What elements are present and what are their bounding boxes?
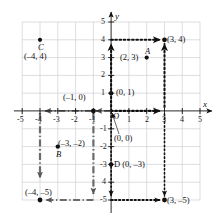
point-neg4-neg5 bbox=[38, 198, 43, 203]
x-tick-neg5: -5 bbox=[17, 116, 24, 124]
coord-label-3-neg5: (3, –5) bbox=[167, 196, 190, 205]
y-tick-2: 2 bbox=[101, 71, 105, 79]
x-tick-neg4: -4 bbox=[35, 116, 42, 124]
x-tick-5: 5 bbox=[198, 116, 202, 124]
point-A bbox=[145, 56, 149, 60]
coord-label-3-4: (3, 4) bbox=[167, 35, 185, 44]
coord-label-D: D (0, –3) bbox=[114, 160, 145, 169]
point-label-B: B bbox=[56, 150, 61, 159]
y-tick-neg4: 4 bbox=[102, 178, 106, 186]
point-neg1-0 bbox=[91, 109, 96, 114]
point-label-A: A bbox=[145, 47, 150, 56]
y-tick-4: 4 bbox=[101, 36, 105, 44]
x-tick-2: 2 bbox=[145, 116, 149, 124]
x-tick-4: 4 bbox=[180, 116, 184, 124]
coordinate-plane-figure: x y O -5 -4 -3 -2 -1 1 2 3 4 5 5 4 3 2 1… bbox=[0, 0, 222, 224]
x-axis-label: x bbox=[203, 99, 207, 109]
coord-label-neg4-4: (–4, 4) bbox=[24, 52, 47, 61]
y-tick-1: 1 bbox=[101, 89, 105, 97]
x-tick-3: 3 bbox=[162, 116, 166, 124]
y-tick-neg3: -3 bbox=[100, 161, 107, 169]
y-axis-label: y bbox=[115, 11, 119, 21]
point-0-1 bbox=[109, 91, 113, 95]
coord-label-0-0: (0, 0) bbox=[114, 134, 132, 143]
origin-label: O bbox=[113, 112, 119, 121]
y-tick-neg5: -5 bbox=[100, 196, 107, 204]
x-tick-neg3: -3 bbox=[53, 116, 60, 124]
y-tick-5: 5 bbox=[101, 18, 105, 26]
x-tick-neg2: -2 bbox=[71, 116, 78, 124]
coord-label-neg4-neg5: (–4, –5) bbox=[25, 188, 52, 197]
point-D bbox=[109, 162, 113, 166]
y-tick-neg2: -2 bbox=[100, 143, 107, 151]
coord-label-neg3-neg2: (–3, –2) bbox=[58, 139, 85, 148]
x-tick-neg1: -1 bbox=[89, 116, 96, 124]
y-tick-3: 3 bbox=[101, 54, 105, 62]
coord-label-neg1-0: (–1, 0) bbox=[63, 93, 86, 102]
x-tick-1: 1 bbox=[127, 116, 131, 124]
coord-label-0-1: (0, 1) bbox=[116, 88, 134, 97]
y-tick-neg1: -1 bbox=[100, 125, 107, 133]
coord-label-2-3: (2, 3) bbox=[120, 53, 138, 62]
